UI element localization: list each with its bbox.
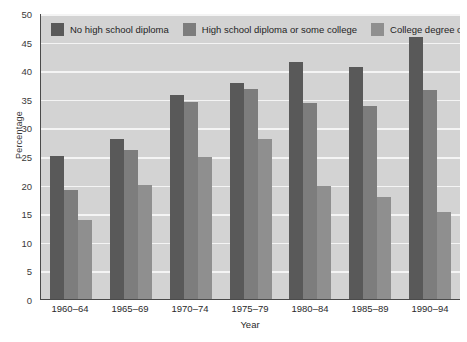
bar[interactable] [363, 106, 377, 299]
bar[interactable] [258, 139, 272, 299]
bar-group [101, 14, 161, 299]
bar[interactable] [198, 157, 212, 299]
bar[interactable] [437, 212, 451, 299]
y-axis-tick-labels: 05101520253035404550 [0, 14, 36, 300]
bar-group [161, 14, 221, 299]
legend: No high school diplomaHigh school diplom… [41, 14, 460, 44]
x-axis-tick: 1965–69 [100, 303, 160, 314]
bar-groups [41, 14, 460, 299]
bar[interactable] [138, 185, 152, 299]
x-axis-tick: 1990–94 [400, 303, 460, 314]
bar[interactable] [170, 95, 184, 299]
bar[interactable] [377, 197, 391, 299]
bar-group [280, 14, 340, 299]
x-axis-tick: 1975–79 [220, 303, 280, 314]
y-axis-tick: 10 [21, 237, 32, 248]
bar[interactable] [303, 103, 317, 299]
y-axis-tick: 30 [21, 123, 32, 134]
y-axis-tick: 25 [21, 152, 32, 163]
legend-swatch-icon [183, 23, 196, 36]
bar[interactable] [349, 67, 363, 299]
bar-group [221, 14, 281, 299]
bar[interactable] [50, 156, 64, 299]
bar[interactable] [244, 89, 258, 299]
bar[interactable] [423, 90, 437, 299]
legend-item[interactable]: College degree or more [371, 23, 460, 36]
bar[interactable] [289, 62, 303, 299]
bar[interactable] [317, 186, 331, 299]
legend-swatch-icon [51, 23, 64, 36]
x-axis-tick: 1985–89 [340, 303, 400, 314]
y-axis-tick: 35 [21, 94, 32, 105]
bar-group [41, 14, 101, 299]
bar[interactable] [110, 139, 124, 299]
x-axis-tick: 1960–64 [40, 303, 100, 314]
x-axis-tick: 1980–84 [280, 303, 340, 314]
bar-group [340, 14, 400, 299]
plot-area: No high school diplomaHigh school diplom… [40, 14, 460, 300]
x-axis-tick: 1970–74 [160, 303, 220, 314]
x-axis-label: Year [40, 319, 460, 330]
legend-label: College degree or more [390, 24, 460, 35]
bar-chart: Percentage 05101520253035404550 No high … [0, 0, 467, 342]
bar-group [400, 14, 460, 299]
bar[interactable] [64, 190, 78, 299]
legend-swatch-icon [371, 23, 384, 36]
y-axis-tick: 20 [21, 180, 32, 191]
y-axis-tick: 5 [27, 266, 32, 277]
x-axis-tick-labels: 1960–641965–691970–741975–791980–841985–… [40, 303, 460, 314]
bar[interactable] [230, 83, 244, 299]
bar[interactable] [78, 220, 92, 299]
y-axis-tick: 40 [21, 66, 32, 77]
y-axis-tick: 15 [21, 209, 32, 220]
y-axis-tick: 50 [21, 9, 32, 20]
y-axis-tick: 0 [27, 295, 32, 306]
legend-item[interactable]: No high school diploma [51, 23, 169, 36]
legend-label: High school diploma or some college [202, 24, 357, 35]
legend-label: No high school diploma [70, 24, 169, 35]
bar[interactable] [124, 150, 138, 299]
legend-item[interactable]: High school diploma or some college [183, 23, 357, 36]
bar[interactable] [184, 102, 198, 299]
bar[interactable] [409, 37, 423, 299]
y-axis-tick: 45 [21, 37, 32, 48]
